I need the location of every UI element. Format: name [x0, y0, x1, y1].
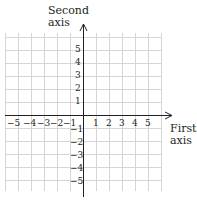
x-tick-label: −5	[7, 119, 20, 128]
y-tick-label: 2	[75, 84, 81, 93]
y-tick-label: 4	[75, 58, 81, 67]
x-tick-label: 1	[93, 119, 99, 128]
y-tick-label: −1	[70, 125, 83, 134]
y-tick-label: −3	[70, 151, 83, 160]
y-tick-label: −2	[70, 138, 83, 147]
x-tick-label: 4	[132, 119, 138, 128]
coordinate-plane	[0, 0, 197, 200]
y-tick-label: −5	[70, 177, 83, 186]
y-tick-label: 5	[75, 45, 81, 54]
x-tick-label: 3	[119, 119, 125, 128]
y-tick-label: −4	[70, 164, 83, 173]
x-tick-label: 5	[145, 119, 151, 128]
x-tick-label: −2	[50, 119, 63, 128]
x-tick-label: −4	[23, 119, 36, 128]
x-tick-label: −3	[37, 119, 50, 128]
x-axis-title-line2: axis	[170, 135, 196, 147]
y-axis-title-line2: axis	[48, 17, 89, 29]
y-tick-label: 3	[75, 71, 81, 80]
x-axis-title: First axis	[170, 123, 196, 147]
x-tick-label: 2	[106, 119, 112, 128]
y-tick-label: 1	[75, 97, 81, 106]
y-axis-title: Second axis	[48, 5, 89, 29]
